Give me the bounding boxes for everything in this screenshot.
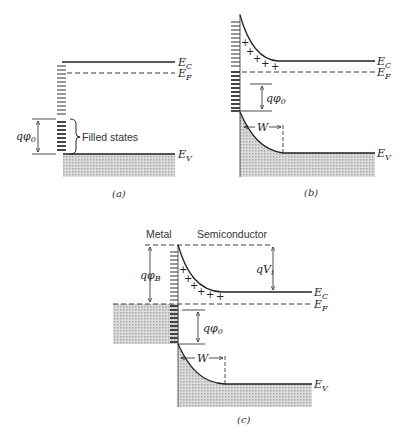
depletion-width-label: W [257,121,270,134]
caption-c: (c) [237,414,251,425]
panel-b: + + + + + qφ0 W EC EF EV (b) [231,14,392,198]
svg-text:+: + [271,61,279,72]
panel-c: Metal Semiconductor [113,228,329,425]
svg-text:+: + [216,291,224,302]
ev-label: EV [313,378,329,393]
svg-text:+: + [197,286,205,297]
metal-fill [113,304,179,344]
positive-charges: + + + + + + [179,264,224,302]
valence-band-fill [63,154,175,177]
svg-text:+: + [261,58,269,69]
surface-potential-label: qφ0 [203,322,223,336]
built-in-potential-label: qVi [256,263,274,277]
surface-potential-label: qφ0 [266,92,286,106]
barrier-height-label: qφB [140,269,161,283]
surface-states [231,22,240,111]
caption-a: (a) [112,188,126,199]
ev-label: EV [376,147,392,162]
surface-states [57,66,66,150]
metal-label: Metal [146,228,172,240]
ev-label: EV [177,148,193,163]
semiconductor-label: Semiconductor [197,228,268,240]
filled-states-label: Filled states [82,131,138,143]
positive-charges: + + + + + [241,37,279,72]
band-diagram-figure: qφ0 Filled states EC EF EV (a) [0,0,404,436]
panel-a: qφ0 Filled states EC EF EV (a) [16,56,193,199]
caption-b: (b) [304,187,318,198]
filled-states-bracket [70,119,80,154]
depletion-width-label: W [197,352,210,365]
surface-potential-label: qφ0 [16,130,36,144]
svg-text:+: + [206,289,214,300]
